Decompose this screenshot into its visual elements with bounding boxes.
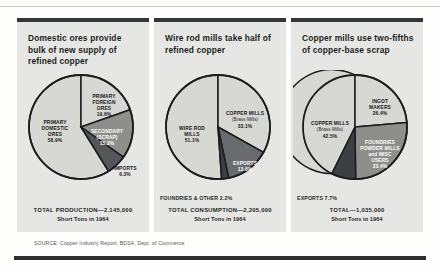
value-primary-foreign-ores: 19.6% — [97, 112, 112, 117]
panel-total: TOTAL—1,035,000 Short Tons in 1964 — [295, 206, 419, 223]
value-imports: 6.3% — [119, 172, 131, 177]
panel-scrap: Copper mills use two-fifths of copper-ba… — [291, 18, 423, 232]
label-copper-mills-2: (Brass Mills) — [232, 117, 259, 122]
panel-total: TOTAL PRODUCTION—2,145,000 Short Tons in… — [21, 206, 145, 223]
label-primary-foreign-ores-2: FOREIGN — [92, 100, 115, 105]
panel-title: Copper mills use two-fifths of copper-ba… — [302, 33, 415, 56]
label-foundries-powder-mills-2: POWDER MILLS — [360, 146, 400, 151]
total-line-1: TOTAL PRODUCTION—2,145,000 — [21, 206, 145, 214]
label-primary-domestic-ores: PRIMARY — [43, 120, 67, 125]
panel-title: Wire rod mills take half of refined copp… — [165, 33, 278, 56]
label-wire-rod-mills-2: MILLS — [184, 132, 200, 137]
label-primary-domestic-ores-3: ORES — [48, 132, 63, 137]
label-foundries-powder-mills-4: USERS — [371, 158, 389, 163]
panel-title: Domestic ores provide bulk of new supply… — [28, 33, 141, 68]
label-primary-foreign-ores-3: ORES — [97, 106, 112, 111]
label-copper-mills-2: (Brass Mills) — [317, 127, 344, 132]
label-primary-foreign-ores: PRIMARY — [92, 94, 116, 99]
value-foundries-powder-mills: 23.4% — [373, 164, 388, 169]
pie-chart-consumption: WIRE ROD MILLS 51.1% COPPER MILLS (Brass… — [154, 70, 286, 188]
label-copper-mills: COPPER MILLS — [311, 121, 350, 126]
panel-production: Domestic ores provide bulk of new supply… — [17, 18, 149, 232]
pie-svg: COPPER MILLS (Brass Mills) 42.5% INGOT M… — [293, 70, 421, 188]
label-imports: IMPORTS — [113, 166, 137, 171]
footnote-foundries-other: FOUNDRIES & OTHER 2.2% — [160, 195, 232, 201]
pie-svg: WIRE ROD MILLS 51.1% COPPER MILLS (Brass… — [156, 70, 284, 188]
label-wire-rod-mills: WIRE ROD — [179, 126, 205, 131]
label-copper-mills: COPPER MILLS — [226, 111, 265, 116]
pie-svg: PRIMARY DOMESTIC ORES 58.9% PRIMARY FORE… — [19, 70, 147, 188]
panel-total: TOTAL CONSUMPTION—2,205,000 Short Tons i… — [158, 206, 282, 223]
pie-chart-production: PRIMARY DOMESTIC ORES 58.9% PRIMARY FORE… — [17, 70, 149, 188]
infographic-sheet: Domestic ores provide bulk of new supply… — [0, 0, 440, 266]
label-foundries-powder-mills: FOUNDRIES — [365, 140, 395, 145]
pie-chart-scrap: COPPER MILLS (Brass Mills) 42.5% INGOT M… — [291, 70, 423, 188]
top-rule — [0, 6, 440, 7]
value-secondary-scrap: 15.2% — [100, 141, 115, 146]
label-ingot-makers: INGOT — [372, 99, 388, 104]
bottom-rule — [14, 256, 426, 260]
label-exports: EXPORTS — [233, 161, 258, 166]
panel-consumption: Wire rod mills take half of refined copp… — [154, 18, 286, 232]
label-secondary-scrap-2: (SCRAP) — [96, 135, 117, 140]
label-ingot-makers-2: MAKERS — [369, 105, 392, 110]
total-line-2: Short Tons in 1964 — [158, 215, 282, 223]
value-wire-rod-mills: 51.1% — [185, 138, 200, 143]
total-line-2: Short Tons in 1964 — [21, 215, 145, 223]
value-copper-mills: 42.5% — [323, 134, 338, 139]
total-line-2: Short Tons in 1964 — [295, 215, 419, 223]
value-exports: 13.6% — [238, 167, 253, 172]
panel-row: Domestic ores provide bulk of new supply… — [17, 18, 423, 232]
source-note: SOURCE: Copper Industry Report, BDSA, De… — [34, 240, 184, 246]
label-foundries-powder-mills-3: and MISC — [368, 152, 392, 157]
footnote-exports: EXPORTS 7.7% — [297, 195, 337, 201]
total-line-1: TOTAL—1,035,000 — [295, 206, 419, 214]
value-primary-domestic-ores: 58.9% — [48, 138, 63, 143]
label-primary-domestic-ores-2: DOMESTIC — [42, 126, 69, 131]
value-ingot-makers: 26.4% — [373, 111, 388, 116]
label-secondary-scrap: SECONDARY — [91, 129, 124, 134]
value-copper-mills: 33.1% — [238, 124, 253, 129]
total-line-1: TOTAL CONSUMPTION—2,205,000 — [158, 206, 282, 214]
